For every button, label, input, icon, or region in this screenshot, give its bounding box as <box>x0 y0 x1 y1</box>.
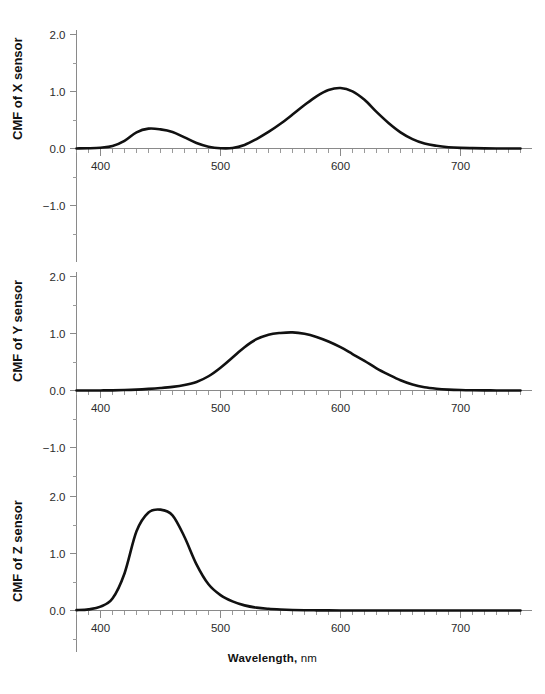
x-tick-labels-y-sensor: 400500600700 <box>91 402 470 414</box>
curve-y-sensor <box>77 332 521 390</box>
y-tick-label--1.0: −1.0 <box>43 442 66 454</box>
x-tick-label-500: 500 <box>211 402 230 414</box>
y-ticks-x-sensor <box>70 35 77 235</box>
y-tick-label-1.0: 1.0 <box>50 328 66 340</box>
x-tick-label-600: 600 <box>331 402 350 414</box>
x-axis-title-unit: nm <box>301 652 317 664</box>
y-axis-title-y-sensor: CMF of Y sensor <box>10 280 25 382</box>
cmf-figure: 2.01.00.0−1.0 400500600700 CMF of X sens… <box>0 0 545 694</box>
y-axis-title-z-sensor: CMF of Z sensor <box>10 500 25 602</box>
y-tick-label-0.0: 0.0 <box>50 605 66 617</box>
y-tick-label--1.0: −1.0 <box>43 200 66 212</box>
x-tick-label-700: 700 <box>451 622 470 634</box>
x-tick-labels-z-sensor: 400500600700 <box>91 622 470 634</box>
y-tick-label-0.0: 0.0 <box>50 143 66 155</box>
y-tick-label-0.0: 0.0 <box>50 385 66 397</box>
x-tick-label-600: 600 <box>331 622 350 634</box>
y-ticks-z-sensor <box>70 497 77 640</box>
x-tick-label-700: 700 <box>451 160 470 172</box>
x-tick-label-500: 500 <box>211 160 230 172</box>
x-tick-label-700: 700 <box>451 402 470 414</box>
x-ticks-x-sensor <box>77 149 521 156</box>
y-tick-labels-z-sensor: 2.01.00.0 <box>50 491 66 617</box>
y-tick-label-2.0: 2.0 <box>50 491 66 503</box>
y-ticks-y-sensor <box>70 277 77 477</box>
panel-cmf-y-sensor: 2.01.00.0−1.0 400500600700 CMF of Y sens… <box>0 260 545 500</box>
x-axis-title-main: Wavelength, <box>228 652 298 664</box>
x-axis-title: Wavelength, nm <box>0 652 545 664</box>
y-tick-labels-x-sensor: 2.01.00.0−1.0 <box>43 29 66 212</box>
y-tick-labels-y-sensor: 2.01.00.0−1.0 <box>43 271 66 454</box>
x-tick-labels-x-sensor: 400500600700 <box>91 160 470 172</box>
y-tick-label-2.0: 2.0 <box>50 271 66 283</box>
x-ticks-y-sensor <box>77 391 521 398</box>
plot-y-sensor: 2.01.00.0−1.0 400500600700 CMF of Y sens… <box>0 260 545 500</box>
x-tick-label-400: 400 <box>91 402 110 414</box>
x-tick-label-600: 600 <box>331 160 350 172</box>
panel-cmf-x-sensor: 2.01.00.0−1.0 400500600700 CMF of X sens… <box>0 0 545 272</box>
plot-x-sensor: 2.01.00.0−1.0 400500600700 CMF of X sens… <box>0 0 545 272</box>
y-tick-label-2.0: 2.0 <box>50 29 66 41</box>
x-tick-label-400: 400 <box>91 160 110 172</box>
curve-z-sensor <box>77 509 521 610</box>
curve-x-sensor <box>77 88 521 149</box>
x-tick-label-500: 500 <box>211 622 230 634</box>
y-tick-label-1.0: 1.0 <box>50 548 66 560</box>
x-tick-label-400: 400 <box>91 622 110 634</box>
y-axis-title-x-sensor: CMF of X sensor <box>10 37 25 140</box>
y-tick-label-1.0: 1.0 <box>50 86 66 98</box>
